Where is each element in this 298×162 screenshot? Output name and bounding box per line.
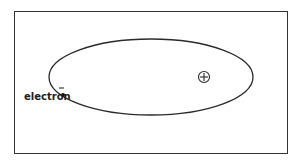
nucleus-plus-icon <box>199 72 210 83</box>
electron-label: electron <box>24 91 71 102</box>
orbit-diagram <box>0 0 298 162</box>
orbit-ellipse <box>49 39 253 115</box>
frame-border <box>15 12 288 154</box>
